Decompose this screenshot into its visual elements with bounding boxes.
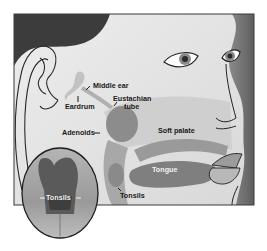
label-eardrum: Eardrum <box>65 102 95 111</box>
label-tonsils: Tonsils <box>120 191 145 200</box>
label-soft-palate: Soft palate <box>158 126 195 135</box>
label-tongue: Tongue <box>152 165 177 174</box>
label-adenoids: Adenoids <box>62 128 95 137</box>
diagram-canvas: Middle ear Eardrum Eustachian tube Adeno… <box>0 0 267 251</box>
label-inset-tonsils: Tonsils <box>46 193 71 202</box>
tonsils-side <box>108 163 124 187</box>
label-eustachian-2: tube <box>124 102 139 111</box>
label-middle-ear: Middle ear <box>93 81 129 90</box>
adenoids <box>106 106 138 142</box>
throat-inset: Tonsils <box>22 148 98 238</box>
ent-anatomy-diagram: Middle ear Eardrum Eustachian tube Adeno… <box>0 0 267 251</box>
